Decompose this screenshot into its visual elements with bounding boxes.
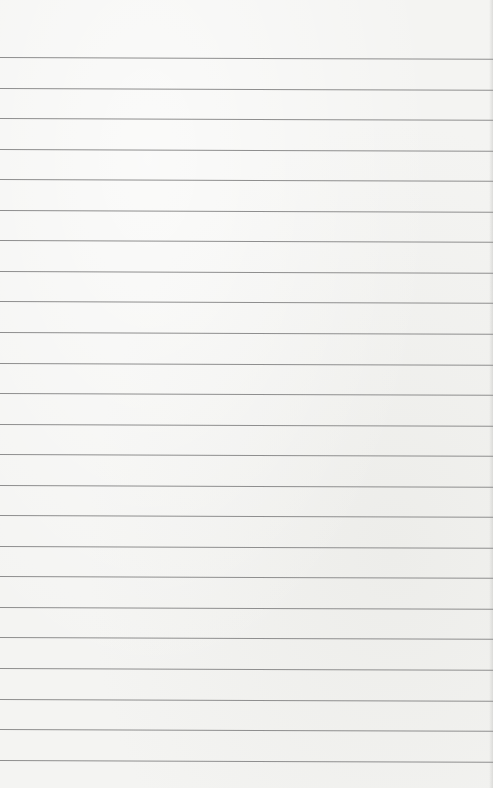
ruled-line — [0, 454, 493, 457]
ruled-line — [0, 424, 493, 427]
ruled-line — [0, 546, 493, 549]
ruled-line — [0, 88, 493, 91]
ruled-line — [0, 576, 493, 579]
ruled-line — [0, 210, 493, 213]
ruled-line — [0, 57, 493, 60]
ruled-line — [0, 301, 493, 304]
ruled-line — [0, 637, 493, 640]
lined-paper — [0, 0, 493, 788]
ruled-line — [0, 668, 493, 671]
ruled-line — [0, 271, 493, 274]
ruled-line — [0, 699, 493, 702]
ruled-line — [0, 485, 493, 488]
ruled-line — [0, 118, 493, 121]
ruled-line — [0, 515, 493, 518]
ruled-line — [0, 607, 493, 610]
ruled-line — [0, 363, 493, 366]
ruled-line — [0, 332, 493, 335]
ruled-line — [0, 760, 493, 763]
ruled-line — [0, 149, 493, 152]
ruled-line — [0, 729, 493, 732]
ruled-line — [0, 240, 493, 243]
ruled-line — [0, 393, 493, 396]
ruled-line — [0, 179, 493, 182]
